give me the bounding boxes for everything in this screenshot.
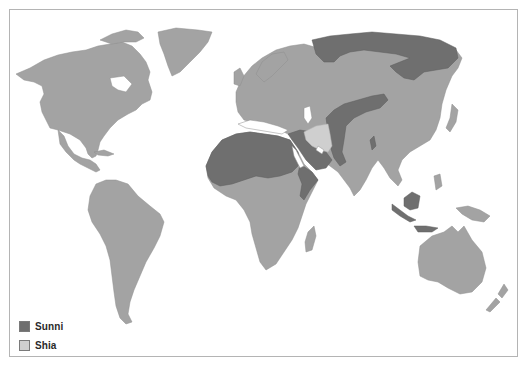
australia [418,226,486,294]
greenland [158,28,212,76]
north-america [16,42,152,158]
south-america [88,180,164,324]
legend-label-shia: Shia [35,340,57,351]
world-map [0,0,529,369]
philippines [434,174,442,190]
new-zealand [486,284,508,312]
japan [446,104,458,132]
shia-swatch [19,340,30,351]
map-legend: Sunni Shia [19,318,63,356]
legend-item-shia: Shia [19,337,63,354]
sunni-swatch [19,321,30,332]
sunni-indonesia [392,192,438,232]
new-guinea [456,206,490,222]
legend-label-sunni: Sunni [35,321,63,332]
madagascar [305,226,316,252]
legend-item-sunni: Sunni [19,318,63,335]
arctic-islands [100,30,144,44]
